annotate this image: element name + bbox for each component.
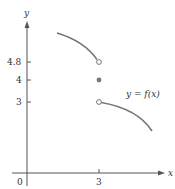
svg-text:3: 3 <box>16 97 22 107</box>
x-axis: x <box>12 168 173 178</box>
origin-label: 0 <box>17 177 23 187</box>
open-circle-upper <box>97 60 102 65</box>
function-graph: y x 0 4.8 4 3 3 y = f(x) <box>0 0 175 189</box>
open-circle-lower <box>97 100 102 105</box>
left-branch-curve <box>57 33 97 60</box>
y-axis-arrow-icon <box>25 21 30 28</box>
function-label: y = f(x) <box>125 89 160 99</box>
right-branch-curve <box>101 103 152 132</box>
y-tick-4: 4 <box>16 75 31 85</box>
x-axis-label: x <box>168 168 173 178</box>
filled-dot <box>97 78 102 83</box>
svg-text:3: 3 <box>96 177 102 187</box>
svg-text:4: 4 <box>16 75 22 85</box>
x-axis-arrow-icon <box>158 171 165 176</box>
x-tick-3: 3 <box>96 169 102 187</box>
y-axis: y <box>23 8 30 186</box>
svg-text:4.8: 4.8 <box>7 57 22 67</box>
y-tick-3: 3 <box>16 97 31 107</box>
y-axis-label: y <box>23 8 30 18</box>
